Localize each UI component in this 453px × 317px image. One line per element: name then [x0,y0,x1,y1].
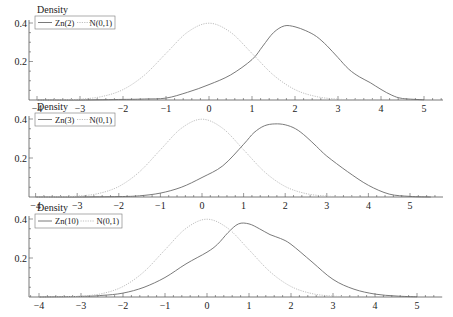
panel-zn3: −4−3−2−10123450.20.4DensityZn(3)N(0,1) [15,101,444,211]
y-axis-title: Density [37,101,68,112]
x-tick-label: 5 [422,103,427,114]
zn-density-curve [39,223,417,297]
legend: Zn(10)N(0,1) [35,214,122,228]
x-tick-label: 0 [207,103,212,114]
x-tick-label: −2 [113,200,124,211]
x-tick-label: −4 [34,300,45,311]
x-tick-label: 3 [331,300,336,311]
y-tick-label: 0.4 [15,214,28,225]
y-tick-label: 0.4 [15,114,28,125]
x-tick-label: −1 [161,103,172,114]
legend-label-zn: Zn(10) [55,216,79,226]
x-tick-label: 2 [289,300,294,311]
x-tick-label: −3 [76,300,87,311]
x-tick-label: 1 [241,200,246,211]
x-tick-label: 2 [293,103,298,114]
x-tick-label: 0 [200,200,205,211]
y-axis-title: Density [37,202,68,213]
x-tick-label: 3 [324,200,329,211]
legend: Zn(3)N(0,1) [35,113,115,126]
x-tick-label: 4 [366,200,371,211]
x-tick-label: 5 [415,300,420,311]
legend-label-zn: Zn(3) [55,115,75,125]
density-comparison-figure: −4−3−2−10123450.20.4DensityZn(2)N(0,1) −… [0,0,453,317]
zn-density-curve [36,124,431,197]
x-tick-label: 2 [283,200,288,211]
x-tick-label: 5 [408,200,413,211]
panel-zn10: −4−3−2−10123450.20.4DensityZn(10)N(0,1) [15,202,443,311]
zn-density-curve [37,26,424,101]
normal-density-curve [39,219,375,297]
x-tick-label: −2 [118,300,129,311]
y-tick-label: 0.2 [15,153,28,164]
legend-label-normal: N(0,1) [90,115,113,125]
x-tick-label: 4 [379,103,384,114]
legend-label-normal: N(0,1) [90,18,113,28]
legend: Zn(2)N(0,1) [35,16,115,29]
x-tick-label: −1 [155,200,166,211]
normal-density-curve [37,23,381,100]
x-tick-label: 1 [247,300,252,311]
x-tick-label: 4 [373,300,378,311]
normal-density-curve [36,119,369,197]
y-axis-title: Density [37,4,68,15]
x-tick-label: 1 [250,103,255,114]
y-tick-label: 0.2 [15,253,28,264]
legend-label-normal: N(0,1) [97,216,120,226]
x-tick-label: −2 [118,103,129,114]
x-tick-label: −3 [72,200,83,211]
x-tick-label: 3 [336,103,341,114]
y-tick-label: 0.2 [15,56,28,67]
panel-zn2: −4−3−2−10123450.20.4DensityZn(2)N(0,1) [15,4,444,114]
x-tick-label: −3 [75,103,86,114]
x-tick-label: 0 [205,300,210,311]
x-tick-label: −1 [160,300,171,311]
y-tick-label: 0.4 [15,18,28,29]
legend-label-zn: Zn(2) [55,18,75,28]
